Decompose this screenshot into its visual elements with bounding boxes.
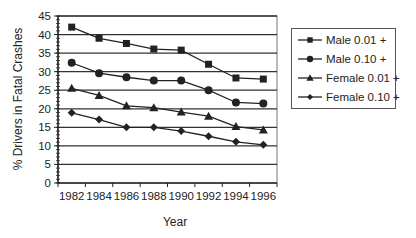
y-tick-label: 25 — [38, 84, 51, 96]
x-tick-label: 1992 — [196, 190, 222, 202]
triangle-marker-icon — [292, 70, 324, 86]
x-tick-label: 1986 — [114, 190, 140, 202]
x-axis-title: Year — [150, 215, 200, 229]
plot-area — [58, 16, 277, 183]
y-tick-label: 30 — [38, 66, 51, 78]
x-tick-label: 1990 — [168, 190, 194, 202]
y-tick-label: 45 — [38, 10, 51, 22]
y-tick-label: 40 — [38, 29, 51, 41]
x-tick-label: 1984 — [86, 190, 112, 202]
x-tick-label: 1996 — [251, 190, 277, 202]
diamond-marker-icon — [292, 89, 324, 105]
y-tick-label: 15 — [38, 121, 51, 133]
y-tick-label: 35 — [38, 47, 51, 59]
x-tick-label: 1994 — [223, 190, 249, 202]
legend-item-male-001: Male 0.01 + — [292, 32, 386, 48]
circle-marker-icon — [292, 51, 324, 67]
y-axis-title: % Drivers in Fatal Crashes — [11, 24, 25, 174]
x-tick-label: 1988 — [141, 190, 167, 202]
x-tick-label: 1982 — [59, 190, 85, 202]
y-tick-label: 20 — [38, 103, 51, 115]
legend: Male 0.01 + Male 0.10 + Female 0.01 + Fe… — [291, 28, 396, 109]
y-tick-label: 0 — [45, 177, 51, 189]
legend-item-female-001: Female 0.01 + — [292, 70, 400, 86]
y-tick-label: 5 — [45, 158, 51, 170]
y-tick-label: 10 — [38, 140, 51, 152]
square-marker-icon — [292, 32, 324, 48]
legend-item-male-010: Male 0.10 + — [292, 51, 386, 67]
legend-item-female-010: Female 0.10 + — [292, 89, 400, 105]
